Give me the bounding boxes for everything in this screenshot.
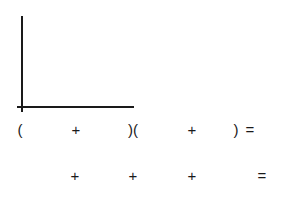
plus-sign: +	[188, 121, 197, 139]
plus-sign: +	[129, 167, 138, 185]
equals-sign: =	[258, 167, 267, 185]
close-paren: )	[234, 121, 239, 139]
equals-sign: =	[246, 121, 255, 139]
y-axis-line	[21, 16, 23, 112]
close-open-paren: )(	[128, 121, 138, 139]
plus-sign: +	[188, 167, 197, 185]
plus-sign: +	[72, 121, 81, 139]
plus-sign: +	[71, 167, 80, 185]
open-paren: (	[18, 121, 23, 139]
x-axis-line	[17, 106, 134, 108]
